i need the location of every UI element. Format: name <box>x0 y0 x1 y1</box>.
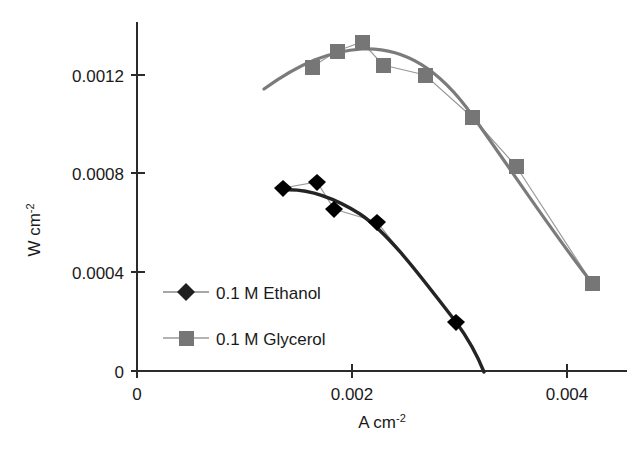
x-tick-label-2: 0.004 <box>546 385 589 404</box>
legend-label-glycerol: 0.1 M Glycerol <box>216 330 326 349</box>
x-tick-label-0: 0 <box>132 385 141 404</box>
y-axis-title-base: W cm <box>25 213 44 256</box>
x-axis-title-base: A cm <box>358 413 396 432</box>
glycerol-markers <box>305 35 600 291</box>
glycerol-point <box>376 58 391 73</box>
y-tick-label-2: 0.0008 <box>72 165 124 184</box>
legend-square-icon <box>179 331 194 346</box>
y-tick-label-0: 0 <box>115 363 124 382</box>
svg-text:A cm-2: A cm-2 <box>358 412 406 432</box>
glycerol-connector-line <box>312 42 592 283</box>
y-tick-label-3: 0.0012 <box>72 67 124 86</box>
power-density-chart: 0.0012 0.0008 0.0004 0 0 0.002 0.004 W c… <box>0 0 641 449</box>
glycerol-trend-curve <box>264 49 592 283</box>
axes-group <box>137 22 627 371</box>
x-axis-title: A cm-2 <box>358 412 406 432</box>
x-axis-title-exponent: -2 <box>396 412 406 424</box>
chart-canvas: 0.0012 0.0008 0.0004 0 0 0.002 0.004 W c… <box>0 0 641 449</box>
y-axis-title-exponent: -2 <box>24 203 36 213</box>
ethanol-markers <box>274 174 465 331</box>
ethanol-point <box>308 174 326 191</box>
glycerol-point <box>305 60 320 75</box>
legend: 0.1 M Ethanol 0.1 M Glycerol <box>163 283 326 349</box>
y-axis-title: W cm-2 <box>24 203 44 256</box>
glycerol-point <box>355 35 370 50</box>
legend-label-ethanol: 0.1 M Ethanol <box>216 284 321 303</box>
legend-item-ethanol[interactable]: 0.1 M Ethanol <box>163 283 321 303</box>
x-tick-label-1: 0.002 <box>331 385 374 404</box>
glycerol-point <box>509 159 524 174</box>
ethanol-point <box>368 214 386 231</box>
y-tick-marks <box>131 75 145 371</box>
svg-text:W cm-2: W cm-2 <box>24 203 44 256</box>
y-tick-label-1: 0.0004 <box>72 264 124 283</box>
glycerol-point <box>465 110 480 125</box>
glycerol-point <box>585 276 600 291</box>
legend-diamond-icon <box>177 283 195 301</box>
legend-item-glycerol[interactable]: 0.1 M Glycerol <box>163 330 326 349</box>
glycerol-point <box>330 44 345 59</box>
glycerol-point <box>418 68 433 83</box>
ethanol-point <box>274 180 292 197</box>
